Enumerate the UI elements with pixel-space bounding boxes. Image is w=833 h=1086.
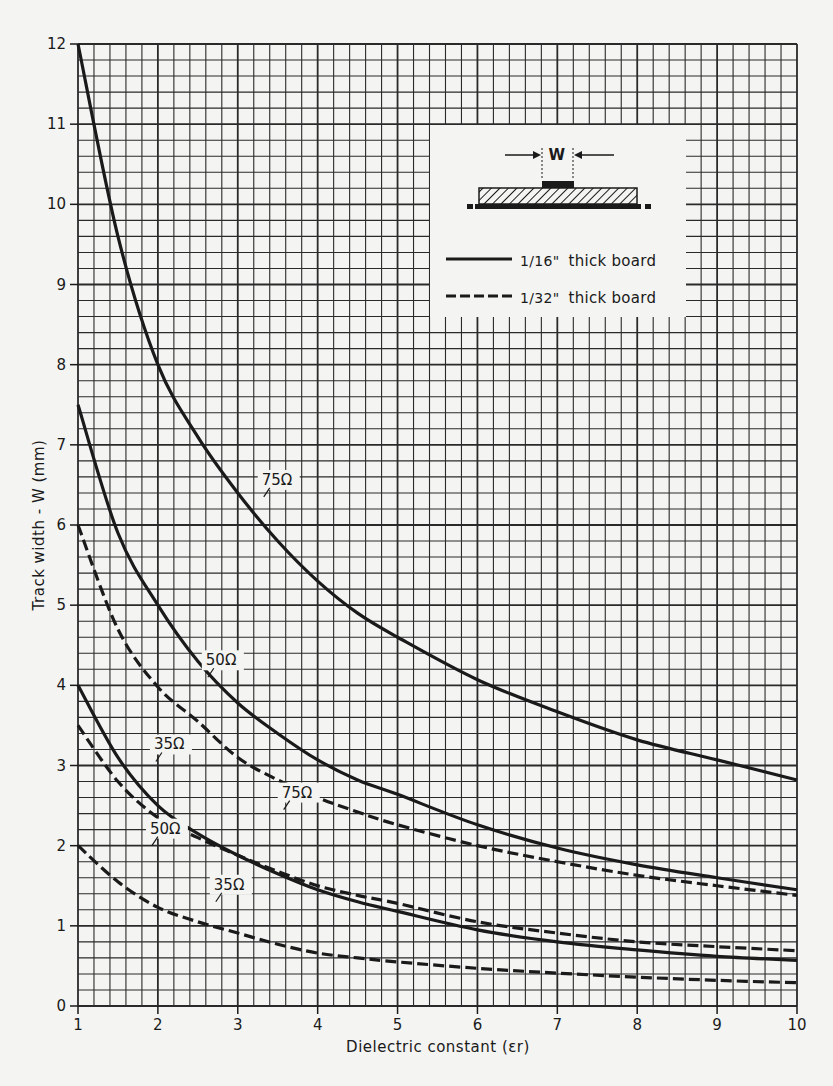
x-tick-label: 5 <box>393 1016 403 1034</box>
x-tick-label: 4 <box>313 1016 323 1034</box>
curve-label: 50Ω <box>206 651 237 669</box>
curve-label: 75Ω <box>262 471 293 489</box>
legend-fraction: 1/16" <box>520 253 559 269</box>
legend-label: thick board <box>568 252 656 270</box>
x-tick-label: 8 <box>632 1016 642 1034</box>
y-tick-label: 1 <box>56 917 66 935</box>
svg-text:1/32" thick board: 1/32" thick board <box>520 289 656 307</box>
x-tick-label: 6 <box>473 1016 483 1034</box>
curve-label: 35Ω <box>154 735 185 753</box>
y-tick-label: 10 <box>47 195 66 213</box>
legend-fraction: 1/32" <box>520 290 559 306</box>
y-tick-label: 6 <box>56 516 66 534</box>
curve-label: 35Ω <box>214 876 245 894</box>
x-tick-label: 7 <box>553 1016 563 1034</box>
width-label: W <box>549 146 566 164</box>
y-tick-label: 9 <box>56 276 66 294</box>
y-tick-label: 12 <box>47 35 66 53</box>
y-tick-label: 3 <box>56 757 66 775</box>
y-tick-label: 8 <box>56 356 66 374</box>
curve-label: 50Ω <box>150 820 181 838</box>
y-axis: 0123456789101112 <box>47 35 78 1015</box>
curve-label: 75Ω <box>282 784 313 802</box>
y-tick-label: 0 <box>56 997 66 1015</box>
legend-label: thick board <box>568 289 656 307</box>
x-tick-label: 9 <box>712 1016 722 1034</box>
svg-text:1/16" thick board: 1/16" thick board <box>520 252 656 270</box>
x-tick-label: 1 <box>73 1016 83 1034</box>
y-tick-label: 4 <box>56 676 66 694</box>
curve-dashed-75ohm <box>78 525 797 895</box>
curve-solid-50ohm <box>78 405 797 890</box>
x-tick-label: 2 <box>153 1016 163 1034</box>
track-width-chart: 0123456789101112 12345678910 75Ω50Ω35Ω75… <box>0 0 833 1086</box>
x-tick-label: 3 <box>233 1016 243 1034</box>
x-tick-label: 10 <box>787 1016 806 1034</box>
y-tick-label: 7 <box>56 436 66 454</box>
y-axis-title: Track width - W (mm) <box>30 440 48 612</box>
y-tick-label: 2 <box>56 837 66 855</box>
y-tick-label: 5 <box>56 596 66 614</box>
x-axis-title: Dielectric constant (εr) <box>346 1038 530 1056</box>
legend: W 1/16" thick board 1/32" thick board <box>430 125 686 317</box>
x-axis: 12345678910 <box>73 1006 806 1034</box>
y-tick-label: 11 <box>47 115 66 133</box>
